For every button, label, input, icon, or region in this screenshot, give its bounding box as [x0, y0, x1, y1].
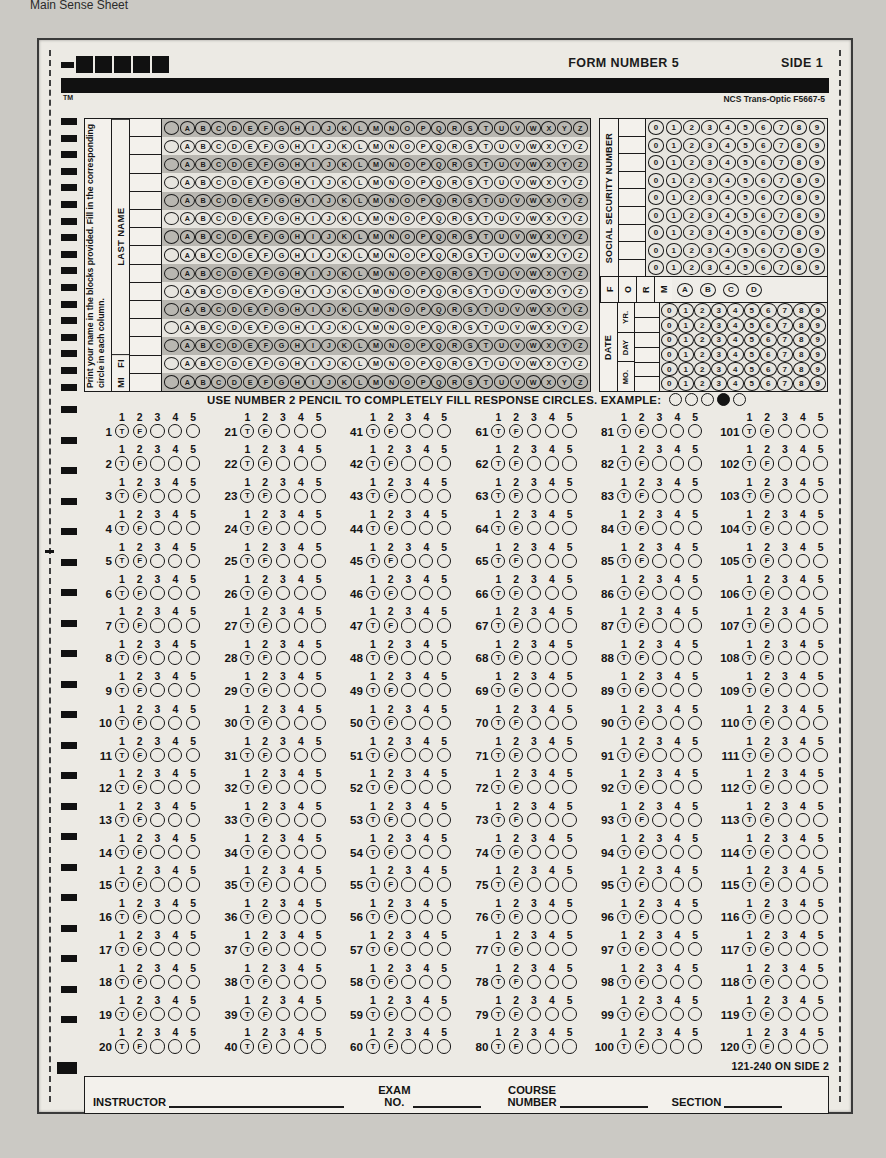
answer-bubble-q60-2[interactable]: F — [384, 1039, 398, 1053]
answer-bubble-q65-4[interactable] — [545, 554, 559, 568]
answer-bubbles[interactable]: TF — [239, 1007, 328, 1021]
name-bubble-R[interactable]: R — [447, 212, 462, 225]
answer-bubbles[interactable]: TF — [490, 942, 579, 956]
answer-bubble-q93-2[interactable]: F — [635, 813, 649, 827]
answer-bubble-wrap[interactable] — [525, 683, 543, 697]
answer-bubble-wrap[interactable]: T — [490, 877, 508, 891]
answer-bubble-wrap[interactable] — [149, 780, 167, 794]
answer-bubble-q22-3[interactable] — [276, 456, 290, 470]
answer-bubbles[interactable]: TF — [364, 456, 453, 470]
answer-bubble-wrap[interactable]: F — [382, 910, 400, 924]
question-body[interactable]: 95TF — [586, 877, 704, 891]
answer-bubble-q18-5[interactable] — [186, 975, 200, 989]
answer-bubble-q82-2[interactable]: F — [635, 456, 649, 470]
answer-bubble-wrap[interactable] — [166, 942, 184, 956]
answer-bubble-q15-1[interactable]: T — [115, 877, 129, 891]
answer-bubble-q34-4[interactable] — [294, 845, 308, 859]
answer-bubble-q55-3[interactable] — [401, 877, 415, 891]
answer-bubble-q90-1[interactable]: T — [617, 716, 631, 730]
answer-bubble-q39-3[interactable] — [276, 1007, 290, 1021]
name-bubble-N[interactable]: N — [384, 194, 399, 207]
answer-bubble-q7-2[interactable]: F — [133, 618, 147, 632]
answer-bubble-wrap[interactable] — [184, 716, 202, 730]
answer-bubble-wrap[interactable] — [417, 1007, 435, 1021]
ssn-bubble-9[interactable]: 9 — [809, 173, 826, 188]
name-bubble-M[interactable]: M — [368, 230, 383, 243]
name-bubble-X[interactable]: X — [541, 357, 556, 370]
answer-bubble-q104-1[interactable]: T — [742, 521, 756, 535]
answer-bubble-q86-3[interactable] — [652, 586, 666, 600]
name-bubble-E[interactable]: E — [243, 357, 258, 370]
answer-bubble-wrap[interactable] — [417, 618, 435, 632]
question-row[interactable]: 1234559TF — [335, 995, 461, 1027]
answer-bubble-wrap[interactable] — [310, 780, 328, 794]
name-bubble-W[interactable]: W — [526, 267, 541, 280]
answer-bubble-q84-5[interactable] — [688, 521, 702, 535]
answer-bubble-q38-1[interactable]: T — [240, 975, 254, 989]
ssn-bubble-6[interactable]: 6 — [755, 243, 772, 258]
question-body[interactable]: 96TF — [586, 910, 704, 924]
answer-bubble-q88-5[interactable] — [688, 651, 702, 665]
answer-bubbles[interactable]: TF — [364, 521, 453, 535]
name-bubble-Y[interactable]: Y — [557, 303, 572, 316]
answer-bubble-wrap[interactable]: T — [490, 651, 508, 665]
answer-bubble-wrap[interactable]: T — [741, 424, 759, 438]
answer-bubble-q70-5[interactable] — [562, 716, 576, 730]
answer-bubbles[interactable]: TF — [364, 942, 453, 956]
answer-bubble-q104-2[interactable]: F — [760, 521, 774, 535]
name-bubble-I[interactable]: I — [305, 121, 320, 134]
answer-bubble-wrap[interactable] — [274, 845, 292, 859]
answer-bubbles[interactable]: TF — [113, 1007, 202, 1021]
question-row[interactable]: 1234525TF — [210, 542, 336, 574]
name-grid[interactable]: Print your name in the blocks provided. … — [84, 118, 591, 392]
answer-bubble-q12-4[interactable] — [168, 780, 182, 794]
answer-bubble-q103-2[interactable]: F — [760, 489, 774, 503]
name-bubble-S[interactable]: S — [463, 121, 478, 134]
answer-bubble-wrap[interactable]: T — [239, 942, 257, 956]
answer-bubble-wrap[interactable]: T — [364, 813, 382, 827]
date-bubble-row[interactable]: 0123456789 — [660, 376, 827, 391]
name-bubble-N[interactable]: N — [384, 158, 399, 171]
date-bubble-9[interactable]: 9 — [810, 333, 827, 348]
answer-bubble-q79-4[interactable] — [545, 1007, 559, 1021]
answer-bubble-q108-2[interactable]: F — [760, 651, 774, 665]
question-body[interactable]: 99TF — [586, 1007, 704, 1021]
answer-bubble-wrap[interactable] — [668, 845, 686, 859]
answer-bubble-wrap[interactable] — [274, 1039, 292, 1053]
instructor-input[interactable] — [169, 1095, 344, 1108]
answer-bubble-q8-1[interactable]: T — [115, 651, 129, 665]
answer-bubbles[interactable]: TF — [113, 877, 202, 891]
name-bubble-row[interactable]: ABCDEFGHIJKLMNOPQRSTUVWXYZ — [162, 210, 590, 228]
answer-bubble-wrap[interactable] — [794, 618, 812, 632]
name-bubble-R[interactable]: R — [447, 121, 462, 134]
ssn-write-box[interactable] — [619, 119, 645, 137]
answer-bubble-q107-2[interactable]: F — [760, 618, 774, 632]
name-bubble-H[interactable]: H — [290, 357, 305, 370]
question-column-6[interactable]: 12345101TF12345102TF12345103TF12345104TF… — [712, 412, 838, 1060]
answer-bubbles[interactable]: TF — [113, 910, 202, 924]
date-bubble-1[interactable]: 1 — [678, 347, 695, 362]
name-bubble-Q[interactable]: Q — [431, 375, 446, 388]
name-bubble-T[interactable]: T — [478, 121, 493, 134]
name-bubble-Q[interactable]: Q — [431, 285, 446, 298]
question-row[interactable]: 1234536TF — [210, 898, 336, 930]
answer-bubble-q99-5[interactable] — [688, 1007, 702, 1021]
name-bubble-X[interactable]: X — [541, 121, 556, 134]
name-blank-bubble[interactable] — [164, 140, 179, 153]
name-bubble-L[interactable]: L — [353, 212, 368, 225]
answer-bubble-q63-3[interactable] — [527, 489, 541, 503]
name-bubble-G[interactable]: G — [274, 357, 289, 370]
name-bubble-Q[interactable]: Q — [431, 267, 446, 280]
question-row[interactable]: 12345104TF — [712, 509, 838, 541]
question-row[interactable]: 1234539TF — [210, 995, 336, 1027]
name-blank-bubble[interactable] — [164, 339, 179, 352]
answer-bubble-q37-4[interactable] — [294, 942, 308, 956]
answer-bubble-q3-5[interactable] — [186, 489, 200, 503]
name-bubble-T[interactable]: T — [478, 248, 493, 261]
name-bubble-I[interactable]: I — [305, 321, 320, 334]
name-bubble-M[interactable]: M — [368, 158, 383, 171]
name-bubble-O[interactable]: O — [400, 176, 415, 189]
answer-bubble-wrap[interactable] — [435, 910, 453, 924]
question-row[interactable]: 1234533TF — [210, 801, 336, 833]
answer-bubble-q58-2[interactable]: F — [384, 975, 398, 989]
